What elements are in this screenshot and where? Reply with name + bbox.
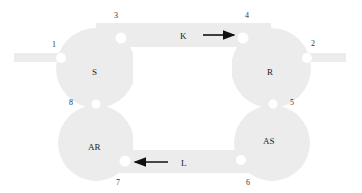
channel-l-label: L — [181, 158, 187, 168]
port-2-label: 2 — [311, 39, 315, 48]
port-1-label: 1 — [52, 40, 56, 49]
port-4-label: 4 — [245, 11, 249, 20]
port-8-label: 8 — [69, 98, 73, 107]
port-1-hole — [56, 53, 66, 63]
port-3-hole — [116, 33, 127, 44]
port-6-hole — [236, 155, 246, 165]
port-4-hole — [238, 33, 249, 44]
fluidic-circuit-diagram: S R AR AS K L 1 2 3 4 5 6 7 8 — [0, 0, 362, 193]
inlet-tube — [14, 53, 60, 62]
port-3-label: 3 — [114, 11, 118, 20]
chamber-s-label: S — [92, 67, 97, 77]
port-8-hole — [92, 100, 101, 109]
inner-void — [133, 47, 232, 150]
port-2-hole — [302, 53, 312, 63]
chamber-ar-label: AR — [88, 142, 101, 152]
port-7-hole — [120, 156, 131, 167]
chamber-r-label: R — [267, 67, 273, 77]
chamber-as-label: AS — [263, 136, 275, 146]
port-7-label: 7 — [116, 178, 120, 187]
channel-k-label: K — [180, 31, 187, 41]
port-5-hole — [269, 100, 278, 109]
port-6-label: 6 — [246, 178, 250, 187]
outlet-tube — [308, 53, 346, 62]
port-5-label: 5 — [290, 98, 294, 107]
